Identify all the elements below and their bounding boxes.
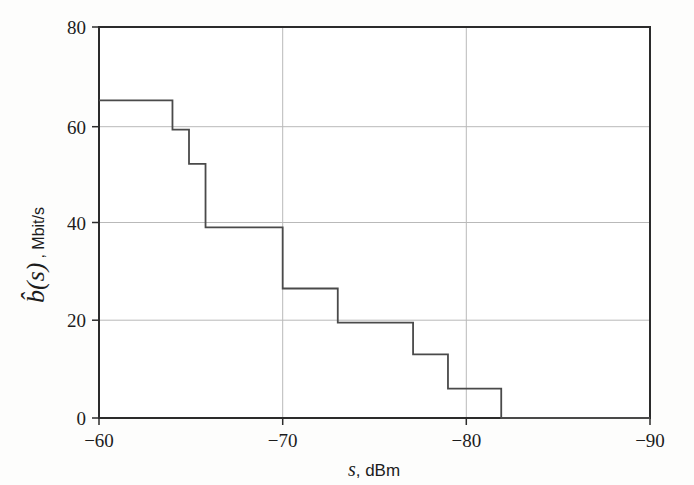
svg-text:s, dBm: s, dBm [348, 458, 400, 480]
y-axis-title-paren-close: ) [21, 263, 50, 274]
svg-text:b̂(s), Mbit/s: b̂(s), Mbit/s [21, 207, 50, 303]
x-tick-label-neg70: −70 [268, 430, 298, 451]
x-tick-label-neg80: −80 [451, 430, 481, 451]
x-axis-title-unit: , dBm [356, 461, 400, 480]
y-tick-label-40: 40 [67, 213, 86, 234]
x-axis-title: s, dBm [348, 458, 400, 480]
x-tick-label-neg90: −90 [635, 430, 665, 451]
y-axis-title: b̂(s), Mbit/s [21, 207, 50, 303]
x-axis-ticks [99, 418, 650, 425]
y-axis-title-argument: s [21, 271, 50, 281]
figure-container: 80 60 40 20 0 −60 −70 −80 −90 s, dBm b̂(… [0, 0, 694, 485]
y-axis-title-unit: , Mbit/s [30, 207, 47, 259]
x-axis-title-variable: s [348, 458, 356, 480]
y-tick-label-20: 20 [67, 310, 86, 331]
y-tick-label-0: 0 [77, 408, 87, 429]
y-axis-title-variable: b̂( [21, 280, 50, 303]
x-tick-labels: −60 −70 −80 −90 [84, 430, 665, 451]
step-chart: 80 60 40 20 0 −60 −70 −80 −90 s, dBm b̂(… [0, 0, 694, 485]
x-tick-label-neg60: −60 [84, 430, 114, 451]
y-axis-ticks [92, 27, 99, 418]
y-tick-labels: 80 60 40 20 0 [67, 17, 86, 429]
y-tick-label-60: 60 [67, 117, 86, 138]
y-tick-label-80: 80 [67, 17, 86, 38]
